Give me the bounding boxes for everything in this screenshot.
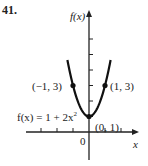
- problem-number: 41.: [2, 3, 17, 17]
- x-axis-label: x: [132, 138, 138, 150]
- point-marker: [70, 83, 75, 88]
- point-label: (−1, 3): [32, 80, 62, 93]
- function-label-text: f(x) = 1 + 2x: [17, 111, 74, 124]
- origin-label: 0: [80, 135, 86, 147]
- function-graph: 41. (−1, 3)(1, 3)(0, 1) f(x) x 0 f(x) = …: [0, 0, 148, 166]
- function-label: f(x) = 1 + 2x2: [17, 110, 77, 124]
- y-axis-label: f(x): [70, 10, 86, 23]
- point-marker: [86, 114, 91, 119]
- point-label: (0, 1): [95, 121, 119, 134]
- function-label-exponent: 2: [73, 110, 77, 118]
- y-axis-arrow: [86, 10, 92, 17]
- point-marker: [102, 83, 107, 88]
- x-axis-arrow: [132, 129, 139, 135]
- point-label: (1, 3): [110, 80, 134, 93]
- labeled-points: (−1, 3)(1, 3)(0, 1): [32, 80, 134, 134]
